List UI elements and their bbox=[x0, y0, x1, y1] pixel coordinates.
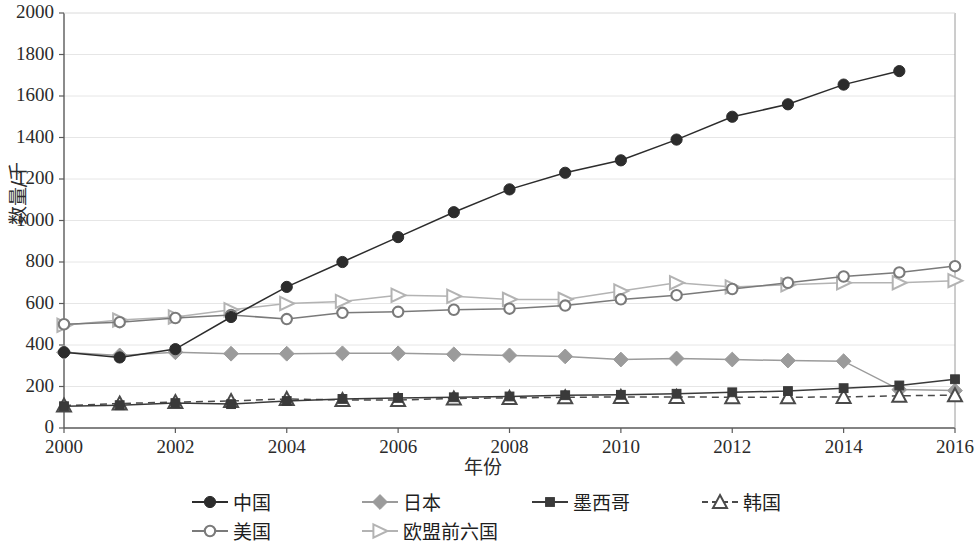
data-point-marker bbox=[281, 281, 292, 292]
data-point-marker bbox=[337, 308, 347, 318]
marker-circle-open bbox=[393, 307, 403, 317]
marker-diamond bbox=[446, 347, 461, 362]
marker-circle-open bbox=[783, 278, 793, 288]
data-point-marker bbox=[560, 167, 571, 178]
marker-circle-open bbox=[114, 317, 124, 327]
marker-circle-open bbox=[170, 313, 180, 323]
marker-square bbox=[394, 394, 403, 403]
legend-item[interactable]: 韩国 bbox=[700, 488, 870, 515]
marker-square bbox=[672, 389, 681, 398]
y-tick-label: 1400 bbox=[8, 126, 54, 148]
data-point-marker bbox=[170, 313, 180, 323]
marker-diamond bbox=[279, 346, 294, 361]
data-point-marker bbox=[670, 276, 684, 289]
data-point-marker bbox=[170, 344, 181, 355]
marker-square bbox=[227, 400, 236, 409]
marker-circle bbox=[58, 347, 69, 358]
marker-circle bbox=[448, 207, 459, 218]
y-tick-label: 1600 bbox=[8, 84, 54, 106]
marker-triangle-right-open bbox=[447, 290, 461, 303]
marker-square bbox=[951, 375, 960, 384]
data-point-marker bbox=[839, 384, 848, 393]
marker-square bbox=[338, 395, 347, 404]
tick-marks bbox=[59, 13, 955, 433]
marker-circle-open bbox=[671, 290, 681, 300]
data-point-marker bbox=[505, 392, 514, 401]
legend-item[interactable]: 日本 bbox=[360, 488, 530, 515]
x-tick-label: 2008 bbox=[470, 436, 550, 458]
data-point-marker bbox=[725, 352, 740, 367]
marker-circle-open bbox=[205, 525, 215, 535]
marker-circle-open bbox=[894, 267, 904, 277]
data-point-marker bbox=[335, 346, 350, 361]
marker-diamond bbox=[725, 352, 740, 367]
data-point-marker bbox=[671, 290, 681, 300]
marker-circle bbox=[337, 256, 348, 267]
data-point-marker bbox=[60, 402, 69, 411]
marker-circle-open bbox=[616, 294, 626, 304]
legend-label: 中国 bbox=[233, 488, 271, 515]
series-4 bbox=[60, 375, 960, 411]
data-point-marker bbox=[394, 394, 403, 403]
x-tick-label: 2010 bbox=[581, 436, 661, 458]
data-point-marker bbox=[558, 349, 573, 364]
gridlines bbox=[64, 13, 955, 387]
marker-diamond bbox=[781, 353, 796, 368]
marker-square bbox=[282, 397, 291, 406]
marker-circle-open bbox=[449, 305, 459, 315]
data-point-marker bbox=[504, 303, 514, 313]
legend-label: 日本 bbox=[403, 488, 441, 515]
y-tick-label: 1000 bbox=[8, 209, 54, 231]
marker-diamond bbox=[836, 354, 851, 369]
marker-circle bbox=[170, 344, 181, 355]
legend-item[interactable]: 墨西哥 bbox=[530, 488, 700, 515]
marker-square bbox=[561, 391, 570, 400]
marker-square bbox=[171, 399, 180, 408]
data-point-marker bbox=[616, 390, 625, 399]
legend-label: 美国 bbox=[233, 517, 271, 544]
data-point-marker bbox=[114, 352, 125, 363]
marker-diamond bbox=[335, 346, 350, 361]
legend-swatch bbox=[190, 492, 230, 512]
data-point-marker bbox=[114, 317, 124, 327]
x-tick-label: 2014 bbox=[804, 436, 884, 458]
legend-item[interactable]: 美国 bbox=[190, 517, 360, 544]
marker-diamond bbox=[373, 494, 388, 509]
legend-item[interactable]: 中国 bbox=[190, 488, 360, 515]
marker-circle-open bbox=[337, 308, 347, 318]
data-point-marker bbox=[279, 346, 294, 361]
data-point-marker bbox=[393, 232, 404, 243]
y-tick-label: 800 bbox=[8, 250, 54, 272]
y-tick-label: 1200 bbox=[8, 167, 54, 189]
data-point-marker bbox=[781, 353, 796, 368]
data-point-marker bbox=[205, 525, 215, 535]
data-point-marker bbox=[782, 99, 793, 110]
legend-swatch bbox=[360, 492, 400, 512]
data-point-marker bbox=[950, 261, 960, 271]
data-point-marker bbox=[671, 134, 682, 145]
data-point-marker bbox=[838, 271, 848, 281]
marker-square bbox=[60, 402, 69, 411]
marker-triangle-right-open bbox=[336, 295, 350, 308]
data-point-marker bbox=[280, 297, 294, 310]
data-point-marker bbox=[672, 389, 681, 398]
data-point-marker bbox=[446, 347, 461, 362]
legend-label: 欧盟前六国 bbox=[403, 517, 498, 544]
marker-circle bbox=[114, 352, 125, 363]
chart-legend: 中国日本墨西哥韩国美国欧盟前六国 bbox=[190, 487, 870, 545]
legend-item[interactable]: 欧盟前六国 bbox=[360, 517, 530, 544]
series-0 bbox=[58, 66, 905, 364]
data-point-marker bbox=[115, 401, 124, 410]
legend-swatch bbox=[360, 521, 400, 541]
marker-circle bbox=[204, 496, 215, 507]
marker-circle bbox=[393, 232, 404, 243]
marker-triangle-right-open bbox=[280, 297, 294, 310]
marker-square bbox=[546, 497, 555, 506]
data-point-marker bbox=[391, 346, 406, 361]
marker-circle bbox=[225, 311, 236, 322]
marker-diamond bbox=[224, 346, 239, 361]
marker-square bbox=[505, 392, 514, 401]
x-tick-label: 2016 bbox=[915, 436, 979, 458]
data-point-marker bbox=[836, 354, 851, 369]
